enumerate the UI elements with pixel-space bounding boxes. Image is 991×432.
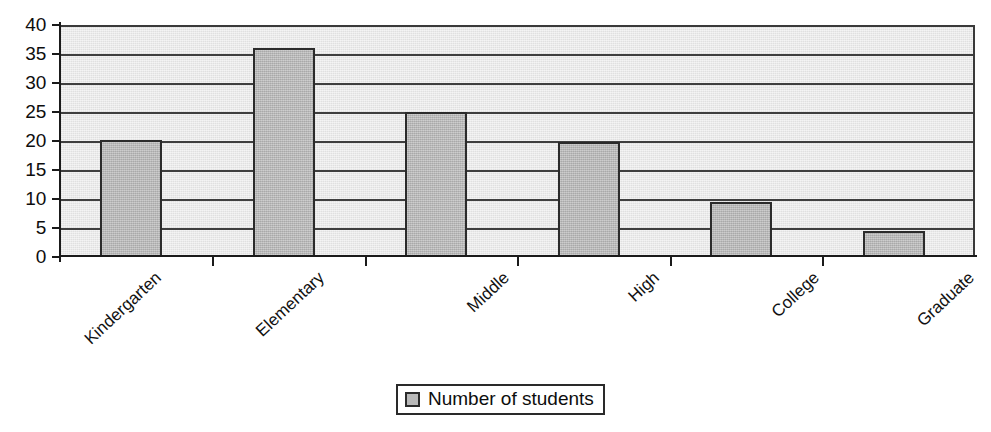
y-axis-line [59,22,61,262]
chart-legend: Number of students [396,384,605,415]
x-axis-label-graduate: Graduate [833,268,978,405]
gridline [60,199,973,201]
bar-graduate [863,231,925,257]
y-axis-tick-label: 40 [0,15,46,34]
gridline [60,83,973,85]
gridline [60,228,973,230]
x-axis-label-elementary: Elementary [183,268,328,405]
bar-college [710,202,772,257]
y-axis-tick-label: 10 [0,189,46,208]
bar-middle [405,112,467,257]
x-axis-tick-mark [212,257,214,266]
y-axis-tick-label: 20 [0,131,46,150]
y-axis-tick-label: 30 [0,73,46,92]
y-axis-tick-label: 35 [0,44,46,63]
x-axis-tick-mark [670,257,672,266]
y-axis-tick-labels: 40 35 30 25 20 15 10 5 0 [0,0,46,432]
bar-high [558,142,620,257]
bar-chart: 40 35 30 25 20 15 10 5 0 [0,0,991,432]
bar-elementary [253,48,315,257]
legend-swatch-icon [405,392,420,407]
gridline [60,141,973,143]
bar-kindergarten [100,140,162,257]
x-axis-tick-mark [822,257,824,266]
x-axis-tick-mark [517,257,519,266]
x-axis-tick-mark [365,257,367,266]
y-axis-tick-label: 5 [0,218,46,237]
gridline [60,112,973,114]
x-axis-label-college: College [678,268,823,405]
plot-area [60,25,975,257]
y-axis-tick-label: 15 [0,160,46,179]
gridline [60,170,973,172]
y-axis-tick-label: 0 [0,247,46,266]
gridline [60,54,973,56]
y-axis-tick-label: 25 [0,102,46,121]
legend-label: Number of students [428,389,594,409]
